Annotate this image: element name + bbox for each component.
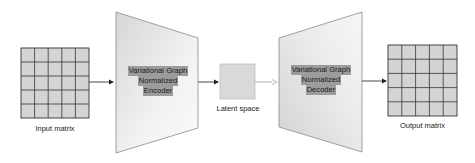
decoder-label-line-3: Decoder [306,85,337,95]
encoder-label: Variational Graph Normalized Encoder [118,66,198,96]
encoder-label-line-2: Normalized [138,76,178,86]
autoencoder-diagram [0,0,475,163]
encoder-label-line-1: Variational Graph [128,66,189,76]
input-matrix-label: Input matrix [21,124,89,133]
output-matrix [388,45,457,116]
output-matrix-label: Output matrix [384,121,461,130]
latent-space-label: Latent space [212,104,264,113]
decoder-label: Variational Graph Normalized Decoder [281,65,361,95]
latent-space-box [220,64,255,99]
decoder-label-line-1: Variational Graph [291,65,352,75]
encoder-label-line-3: Encoder [143,86,173,96]
decoder-label-line-2: Normalized [301,75,341,85]
input-matrix [21,48,89,118]
